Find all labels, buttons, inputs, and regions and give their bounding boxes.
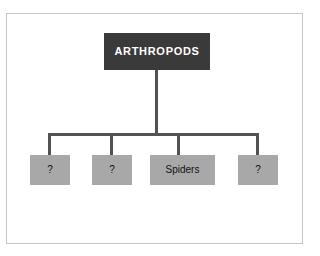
node-leaf-2[interactable]: ? — [92, 155, 132, 185]
diagram-canvas: ARTHROPODS ? ? Spiders ? — [0, 0, 320, 256]
connector-drop-1 — [48, 135, 51, 155]
node-leaf-4-label: ? — [255, 165, 261, 175]
connector-drop-2 — [110, 135, 113, 155]
connector-drop-4 — [256, 135, 259, 155]
node-leaf-3-label: Spiders — [166, 165, 200, 175]
node-leaf-2-label: ? — [109, 165, 115, 175]
node-leaf-1-label: ? — [47, 165, 53, 175]
node-root-arthropods[interactable]: ARTHROPODS — [104, 33, 210, 70]
node-leaf-1[interactable]: ? — [30, 155, 70, 185]
node-leaf-4[interactable]: ? — [238, 155, 278, 185]
connector-horizontal-bus — [48, 133, 259, 136]
connector-root-stem — [155, 70, 158, 135]
node-root-label: ARTHROPODS — [114, 46, 199, 57]
node-leaf-3-spiders[interactable]: Spiders — [150, 155, 215, 185]
connector-drop-3 — [177, 135, 180, 155]
